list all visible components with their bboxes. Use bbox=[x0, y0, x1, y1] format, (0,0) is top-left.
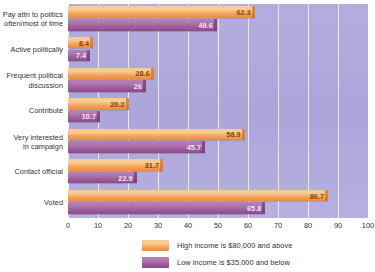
bar-high-income: 8.4 bbox=[68, 37, 93, 49]
chart-row: Very interestedin campaign58.945.7 bbox=[0, 126, 375, 157]
x-tick-label: 0 bbox=[66, 221, 70, 230]
category-label-line: Very interested bbox=[0, 132, 63, 141]
bar-value-label: 28.6 bbox=[135, 69, 149, 78]
bar-end-cap bbox=[262, 202, 265, 214]
bar-value-label: 65.8 bbox=[247, 204, 261, 213]
category-label: Pay attn to politicsoften/most of time bbox=[0, 10, 63, 28]
chart-row: Contribute20.210.7 bbox=[0, 96, 375, 127]
legend-swatch-high-income bbox=[142, 240, 169, 251]
bar-low-income: 22.9 bbox=[68, 172, 137, 184]
category-label: Contribute bbox=[0, 106, 63, 115]
bars-wrap: 8.47.4 bbox=[68, 35, 368, 66]
bar-value-label: 62.3 bbox=[237, 8, 251, 17]
x-tick-label: 80 bbox=[304, 221, 312, 230]
x-tick-label: 10 bbox=[94, 221, 102, 230]
bar-high-income: 58.9 bbox=[68, 129, 245, 141]
category-label: Active politically bbox=[0, 45, 63, 54]
bar-end-cap bbox=[126, 98, 129, 110]
bar-chart: Pay attn to politicsoften/most of time62… bbox=[0, 0, 375, 272]
bar-high-income: 86.7 bbox=[68, 190, 328, 202]
x-tick-label: 40 bbox=[184, 221, 192, 230]
category-label: Frequent politicaldiscussion bbox=[0, 71, 63, 89]
chart-row: Voted86.765.8 bbox=[0, 187, 375, 218]
bar-end-cap bbox=[151, 68, 154, 80]
bar-high-income: 20.2 bbox=[68, 98, 129, 110]
x-axis: 0102030405060708090100 bbox=[68, 218, 368, 234]
x-tick-label: 60 bbox=[244, 221, 252, 230]
bars-wrap: 58.945.7 bbox=[68, 126, 368, 157]
category-label-line: often/most of time bbox=[0, 19, 63, 28]
bar-value-label: 10.7 bbox=[82, 112, 96, 121]
bar-end-cap bbox=[252, 6, 255, 18]
bar-value-label: 31.7 bbox=[145, 160, 159, 169]
bar-low-income: 7.4 bbox=[68, 50, 90, 62]
bar-end-cap bbox=[214, 19, 217, 31]
bar-value-label: 86.7 bbox=[310, 191, 324, 200]
category-label-line: discussion bbox=[0, 80, 63, 89]
bar-end-cap bbox=[160, 159, 163, 171]
legend-label: High income is $80,000 and above bbox=[177, 241, 292, 250]
x-tick-label: 70 bbox=[274, 221, 282, 230]
category-label-line: Contribute bbox=[0, 106, 63, 115]
bar-end-cap bbox=[134, 172, 137, 184]
bar-end-cap bbox=[143, 80, 146, 92]
bar-value-label: 58.9 bbox=[226, 130, 240, 139]
bar-value-label: 22.9 bbox=[118, 173, 132, 182]
x-tick-label: 30 bbox=[154, 221, 162, 230]
bars-wrap: 62.349.6 bbox=[68, 4, 368, 35]
bar-value-label: 20.2 bbox=[110, 99, 124, 108]
category-label-line: in campaign bbox=[0, 142, 63, 151]
bar-end-cap bbox=[242, 129, 245, 141]
bar-value-label: 26 bbox=[134, 81, 142, 90]
legend-item[interactable]: High income is $80,000 and above bbox=[142, 238, 372, 253]
bar-end-cap bbox=[90, 37, 93, 49]
bar-value-label: 45.7 bbox=[187, 143, 201, 152]
bar-low-income: 65.8 bbox=[68, 202, 265, 214]
category-label: Contact official bbox=[0, 168, 63, 177]
legend-swatch-low-income bbox=[142, 257, 169, 268]
bar-low-income: 49.6 bbox=[68, 19, 217, 31]
bar-low-income: 45.7 bbox=[68, 141, 205, 153]
bar-value-label: 49.6 bbox=[198, 20, 212, 29]
bars-wrap: 31.722.9 bbox=[68, 157, 368, 188]
chart-row: Pay attn to politicsoften/most of time62… bbox=[0, 4, 375, 35]
x-tick-label: 50 bbox=[214, 221, 222, 230]
chart-rows: Pay attn to politicsoften/most of time62… bbox=[0, 4, 375, 218]
bar-low-income: 10.7 bbox=[68, 111, 100, 123]
category-label-line: Active politically bbox=[0, 45, 63, 54]
x-tick-label: 100 bbox=[362, 221, 374, 230]
bar-low-income: 26 bbox=[68, 80, 146, 92]
chart-legend: High income is $80,000 and aboveLow inco… bbox=[142, 238, 372, 272]
bar-end-cap bbox=[325, 190, 328, 202]
bar-high-income: 62.3 bbox=[68, 6, 255, 18]
category-label: Voted bbox=[0, 198, 63, 207]
category-label-line: Frequent political bbox=[0, 71, 63, 80]
bar-end-cap bbox=[87, 50, 90, 62]
category-label-line: Voted bbox=[0, 198, 63, 207]
bar-end-cap bbox=[202, 141, 205, 153]
chart-row: Frequent politicaldiscussion28.626 bbox=[0, 65, 375, 96]
bars-wrap: 86.765.8 bbox=[68, 187, 368, 218]
bar-value-label: 7.4 bbox=[76, 51, 86, 60]
legend-label: Low income is $35,000 and below bbox=[177, 258, 290, 267]
bar-end-cap bbox=[97, 111, 100, 123]
x-tick-label: 20 bbox=[124, 221, 132, 230]
bar-high-income: 28.6 bbox=[68, 68, 154, 80]
bar-high-income: 31.7 bbox=[68, 159, 163, 171]
bars-wrap: 20.210.7 bbox=[68, 96, 368, 127]
bar-value-label: 8.4 bbox=[79, 38, 89, 47]
category-label-line: Pay attn to politics bbox=[0, 10, 63, 19]
legend-item[interactable]: Low income is $35,000 and below bbox=[142, 255, 372, 270]
chart-row: Contact official31.722.9 bbox=[0, 157, 375, 188]
category-label-line: Contact official bbox=[0, 168, 63, 177]
x-tick-label: 90 bbox=[334, 221, 342, 230]
chart-row: Active politically8.47.4 bbox=[0, 35, 375, 66]
category-label: Very interestedin campaign bbox=[0, 132, 63, 150]
bars-wrap: 28.626 bbox=[68, 65, 368, 96]
